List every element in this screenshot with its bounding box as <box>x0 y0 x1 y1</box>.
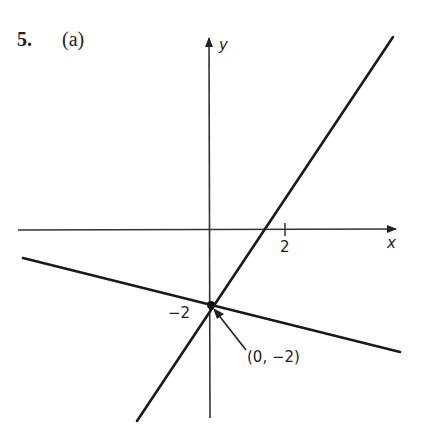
point-label: (0, −2) <box>247 348 300 366</box>
pointer-arrow <box>217 313 246 350</box>
y-axis <box>209 38 210 418</box>
pointer-arrowhead-icon <box>213 308 224 319</box>
x-axis-label: x <box>386 234 396 252</box>
x-axis <box>18 229 396 230</box>
y-tick-label: −2 <box>168 304 190 322</box>
x-tick-label: 2 <box>280 238 290 256</box>
coordinate-diagram: y x 2 −2 (0, −2) <box>0 0 431 436</box>
y-axis-label: y <box>218 36 229 54</box>
intersection-point <box>207 301 215 309</box>
